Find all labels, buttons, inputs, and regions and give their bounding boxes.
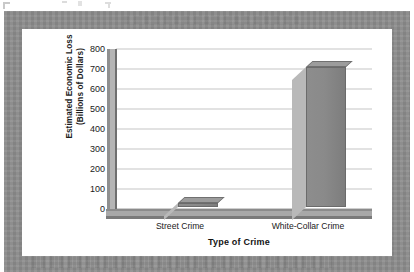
scan-ghost-text-bottom — [32, 256, 332, 268]
x-axis-label-1: White-Collar Crime — [244, 221, 372, 231]
y-axis-tick-100: 100 — [70, 185, 105, 194]
bar-front-face — [306, 67, 346, 207]
bar-street-crime[interactable] — [178, 203, 218, 207]
y-axis-tick-400: 400 — [70, 125, 105, 134]
scan-ghost-text-top — [124, 16, 304, 24]
y-axis-tick-800: 800 — [70, 45, 105, 54]
y-axis-wall — [106, 49, 117, 219]
x-axis-category-labels: Street CrimeWhite-Collar Crime — [106, 221, 372, 235]
y-axis-tick-600: 600 — [70, 85, 105, 94]
bar-white-collar-crime[interactable] — [306, 67, 346, 207]
bar-side-face — [292, 67, 306, 220]
crop-mark-artifact-2 — [78, 1, 82, 6]
chart-figure: Estimated Economic Loss (Billions of Dol… — [22, 29, 392, 256]
y-axis-tick-700: 700 — [70, 65, 105, 74]
crop-mark-artifact-4 — [108, 2, 110, 8]
y-axis-tick-300: 300 — [70, 145, 105, 154]
bar-front-face — [178, 203, 218, 207]
y-axis-tick-500: 500 — [70, 105, 105, 114]
gridline-800 — [116, 49, 372, 50]
y-axis-tick-200: 200 — [70, 165, 105, 174]
plot-floor — [106, 209, 372, 219]
x-axis-label-0: Street Crime — [116, 221, 244, 231]
x-axis-title: Type of Crime — [106, 237, 372, 247]
crop-mark-corner-vertical — [3, 2, 5, 9]
y-axis-tick-0: 0 — [70, 205, 105, 214]
scanned-page-border: Estimated Economic Loss (Billions of Dol… — [4, 11, 410, 272]
plot-area — [106, 49, 372, 217]
y-axis-tick-labels: 8007006005004003002001000 — [70, 49, 105, 217]
scan-crop-marks — [0, 0, 414, 11]
crop-mark-artifact-1 — [62, 1, 67, 3]
